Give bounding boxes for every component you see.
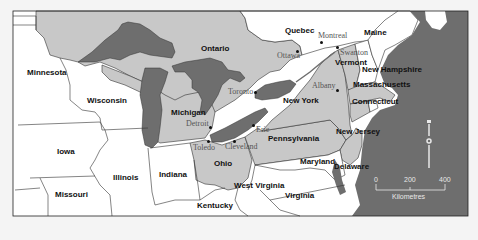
label-city-swanton: Swanton bbox=[340, 49, 368, 57]
scale-tick-0: 0 bbox=[374, 176, 378, 183]
city-dot-albany bbox=[336, 89, 339, 92]
label-quebec: Quebec bbox=[285, 27, 314, 35]
label-illinois: Illinois bbox=[113, 174, 138, 182]
scale-tick-200: 200 bbox=[404, 176, 416, 183]
city-dot-swanton bbox=[336, 46, 339, 49]
label-city-cleveland: Cleveland bbox=[225, 143, 257, 151]
label-minnesota: Minnesota bbox=[27, 69, 67, 77]
label-pennsylvania: Pennsylvania bbox=[268, 135, 319, 143]
city-dot-erie bbox=[252, 124, 255, 127]
label-ohio: Ohio bbox=[214, 160, 232, 168]
label-new-jersey: New Jersey bbox=[336, 128, 380, 136]
label-missouri: Missouri bbox=[55, 191, 88, 199]
label-massachusetts: Massachusetts bbox=[353, 81, 410, 89]
label-city-toledo: Toledo bbox=[193, 144, 215, 152]
scale-tick-400: 400 bbox=[439, 176, 451, 183]
label-city-toronto: Toronto bbox=[228, 88, 253, 96]
label-michigan: Michigan bbox=[171, 109, 206, 117]
label-city-albany: Albany bbox=[312, 82, 336, 90]
label-wisconsin: Wisconsin bbox=[87, 97, 127, 105]
label-new-hampshire: New Hampshire bbox=[362, 66, 422, 74]
label-maine: Maine bbox=[364, 29, 387, 37]
label-ontario: Ontario bbox=[201, 45, 229, 53]
label-connecticut: Connecticut bbox=[352, 98, 398, 106]
city-dot-cleveland bbox=[233, 140, 236, 143]
label-west-virginia: West Virginia bbox=[234, 182, 284, 190]
label-city-detroit: Detroit bbox=[186, 120, 209, 128]
label-delaware: Delaware bbox=[334, 163, 369, 171]
label-maryland: Maryland bbox=[300, 158, 335, 166]
label-iowa: Iowa bbox=[57, 148, 75, 156]
label-kentucky: Kentucky bbox=[197, 202, 233, 210]
city-dot-ottawa bbox=[296, 50, 299, 53]
label-city-ottawa: Ottawa bbox=[277, 52, 300, 60]
city-dot-montreal bbox=[320, 41, 323, 44]
label-city-montreal: Montreal bbox=[318, 32, 347, 40]
label-indiana: Indiana bbox=[159, 171, 187, 179]
city-dot-detroit bbox=[209, 126, 212, 129]
label-city-erie: Erie bbox=[256, 126, 269, 134]
label-new-york: New York bbox=[283, 97, 319, 105]
city-dot-toledo bbox=[207, 140, 210, 143]
scale-unit-label: Kilometres bbox=[392, 193, 425, 200]
city-dot-toronto bbox=[254, 91, 257, 94]
label-virginia: Virginia bbox=[285, 192, 314, 200]
